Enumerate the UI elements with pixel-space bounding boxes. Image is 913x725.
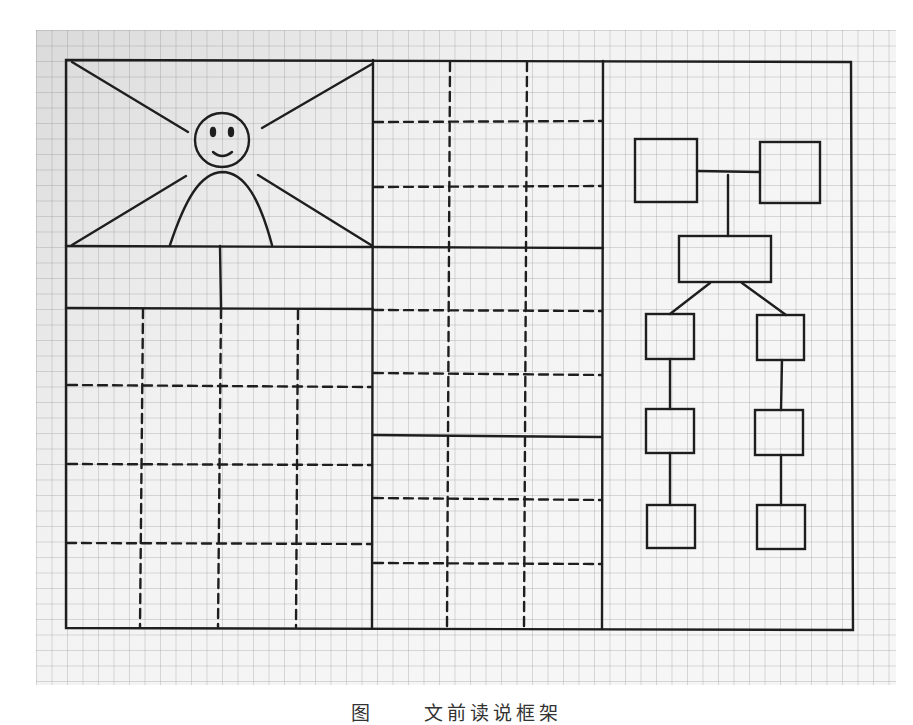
figure-body <box>170 172 272 245</box>
org-box-left-3 <box>647 505 695 548</box>
org-box-top-left <box>635 139 697 202</box>
org-box-top-right <box>760 142 820 203</box>
middle-panel <box>373 62 603 627</box>
label-row-bottom <box>66 308 373 309</box>
left-panel <box>66 62 373 627</box>
label-row-divider <box>220 246 221 308</box>
figure-caption: 图 文前读说框架 <box>0 698 913 725</box>
org-box-right-2 <box>755 410 803 455</box>
middle-solid-row-2 <box>373 435 602 437</box>
middle-dashed-grid <box>374 62 602 627</box>
figure-title: 文前读说框架 <box>424 702 562 724</box>
middle-solid-row-1 <box>373 247 603 248</box>
outer-frame <box>66 60 853 630</box>
sun-rays <box>72 62 372 245</box>
right-panel-org-chart <box>635 139 820 549</box>
org-box-left-1 <box>646 314 694 359</box>
left-dashed-grid <box>67 309 372 627</box>
smiley-face-icon <box>195 113 249 167</box>
figure-label: 图 <box>351 702 374 724</box>
org-box-right-3 <box>757 505 805 549</box>
org-box-left-2 <box>646 409 694 453</box>
org-box-middle <box>679 236 771 282</box>
column-divider-left <box>372 60 373 628</box>
column-divider-right <box>602 61 603 629</box>
org-box-right-1 <box>757 315 804 360</box>
